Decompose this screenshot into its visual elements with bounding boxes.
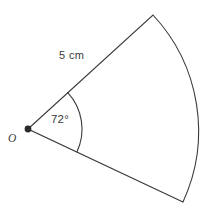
vertex-label: O	[8, 133, 16, 145]
sector-drawing	[0, 0, 214, 215]
radius-label: 5 cm	[59, 50, 84, 61]
angle-label: 72°	[51, 114, 69, 126]
sector-diagram: 5 cm 72° O	[0, 0, 214, 215]
vertex-dot	[25, 126, 32, 133]
sector-outline	[28, 15, 199, 202]
angle-arc	[68, 93, 82, 152]
